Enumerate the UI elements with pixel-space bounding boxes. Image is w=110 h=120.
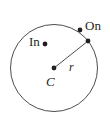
inside-point-dot	[43, 42, 48, 47]
on-label: On	[85, 19, 101, 32]
center-point-dot	[52, 66, 57, 71]
radius-label: r	[69, 61, 74, 73]
circle-radius-diagram: On In C r	[0, 0, 110, 120]
radius-endpoint-dot	[86, 39, 91, 44]
in-label: In	[29, 35, 40, 48]
on-circle-point-dot	[78, 28, 83, 33]
center-label: C	[46, 75, 55, 88]
